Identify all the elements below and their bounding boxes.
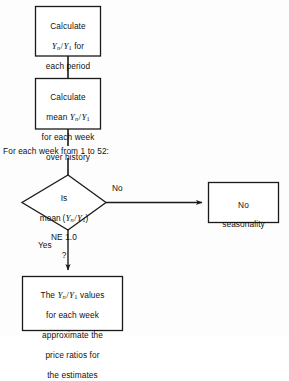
bot-line5: the estimates (47, 370, 98, 380)
bot-line4: price ratios for (45, 350, 99, 360)
node-box-calculate-mean (36, 79, 101, 130)
node-diamond-decision (22, 175, 106, 230)
node-box-price-ratios (23, 277, 123, 331)
node-box-no-seasonality (209, 183, 279, 223)
node-box-calculate-ratio (36, 7, 101, 57)
